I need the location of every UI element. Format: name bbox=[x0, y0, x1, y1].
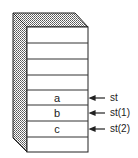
pointer-arrows bbox=[90, 96, 105, 131]
stack-side-face bbox=[13, 13, 27, 152]
stack-diagram: a b c st st(1) st(2) bbox=[0, 0, 138, 158]
stack-cell-c: c bbox=[54, 123, 60, 135]
stack-cell-a: a bbox=[54, 92, 61, 104]
arrow-left-icon bbox=[90, 111, 95, 115]
pointer-label-st1: st(1) bbox=[110, 107, 130, 118]
pointer-label-st2: st(2) bbox=[110, 123, 130, 134]
arrow-left-icon bbox=[90, 96, 95, 100]
pointer-label-st: st bbox=[110, 92, 118, 103]
stack-cell-b: b bbox=[54, 107, 60, 119]
arrow-left-icon bbox=[90, 127, 95, 131]
